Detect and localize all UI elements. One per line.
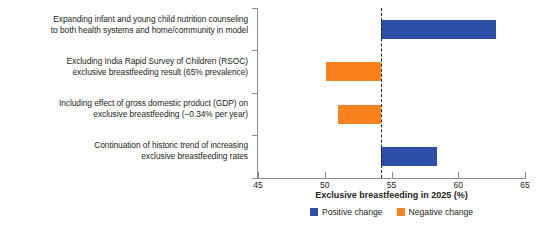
category-label-2-line-0: Including effect of gross domestic produ… (0, 98, 248, 109)
x-axis-title: Exclusive breastfeeding in 2025 (%) (257, 190, 526, 200)
x-axis-ticklabel-1: 50 (305, 180, 345, 190)
category-label-1-line-1: exclusive breastfeeding result (65% prev… (0, 67, 248, 78)
category-label-0-line-0: Expanding infant and young child nutriti… (0, 14, 248, 25)
legend-label-positive: Positive change (322, 207, 383, 217)
x-axis-tick-1 (325, 172, 326, 178)
category-label-0-line-1: to both health systems and home/communit… (0, 25, 248, 36)
legend-swatch-negative-icon (397, 208, 405, 216)
x-axis-tick-4 (525, 172, 526, 178)
legend-item-negative[interactable]: Negative change (397, 207, 474, 217)
category-label-group: Expanding infant and young child nutriti… (0, 8, 248, 178)
bar-1[interactable] (326, 62, 381, 81)
x-axis-tick-0 (258, 172, 259, 178)
bar-2[interactable] (338, 105, 381, 124)
x-axis-ticklabel-0: 45 (238, 180, 278, 190)
y-axis-tick-1 (252, 50, 258, 51)
category-label-3-line-1: exclusive breastfeeding rates (0, 151, 248, 162)
y-axis-tick-2 (252, 93, 258, 94)
category-label-3: Continuation of historic trend of increa… (0, 140, 248, 162)
bar-3[interactable] (381, 147, 437, 166)
y-axis-tick-0 (252, 8, 258, 9)
baseline-reference-line (381, 8, 382, 178)
x-axis-ticklabel-4: 65 (505, 180, 540, 190)
legend-label-negative: Negative change (409, 207, 474, 217)
x-axis-spine (257, 178, 526, 179)
category-label-1: Excluding India Rapid Survey of Children… (0, 56, 248, 78)
category-label-2-line-1: exclusive breastfeeding (−0.34% per year… (0, 109, 248, 120)
category-label-0: Expanding infant and young child nutriti… (0, 14, 248, 36)
category-label-1-line-0: Excluding India Rapid Survey of Children… (0, 56, 248, 67)
category-label-2: Including effect of gross domestic produ… (0, 98, 248, 120)
x-axis-tick-3 (458, 172, 459, 178)
legend-swatch-positive-icon (310, 208, 318, 216)
bar-0[interactable] (381, 20, 496, 39)
legend-item-positive[interactable]: Positive change (310, 207, 383, 217)
category-label-3-line-0: Continuation of historic trend of increa… (0, 140, 248, 151)
x-axis-tick-2 (392, 172, 393, 178)
y-axis-tick-3 (252, 135, 258, 136)
x-axis-ticklabel-2: 55 (372, 180, 412, 190)
x-axis-ticklabel-3: 60 (438, 180, 478, 190)
legend: Positive change Negative change (257, 207, 526, 217)
tornado-chart: Expanding infant and young child nutriti… (0, 0, 540, 234)
